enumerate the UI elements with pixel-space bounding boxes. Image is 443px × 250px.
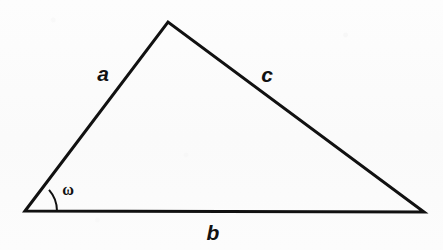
- triangle-canvas: [0, 0, 443, 250]
- triangle-diagram-figure: a c b ω: [0, 0, 443, 250]
- angle-arc-omega: [49, 190, 57, 211]
- edge-label-c: c: [261, 64, 273, 85]
- angle-label-omega: ω: [62, 182, 74, 198]
- edge-label-a: a: [97, 63, 109, 84]
- triangle-outline-path: [25, 22, 424, 212]
- edge-label-b: b: [207, 222, 220, 243]
